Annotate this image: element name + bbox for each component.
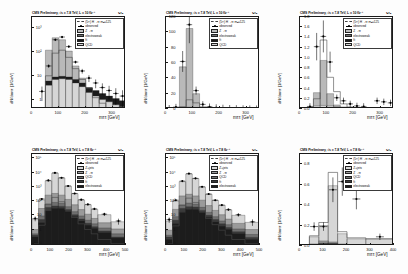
observed-marker-swatch <box>345 25 352 28</box>
y-axis-label: dN/dmττ [1/GeV] <box>9 73 14 104</box>
observed-data-point <box>234 105 240 108</box>
legend-label: t̄t <box>85 38 87 42</box>
x-tick-label: 100 <box>319 247 326 252</box>
y-tick-label: 0.4 <box>298 202 310 207</box>
color-swatch <box>77 185 84 188</box>
x-tick-label: 100 <box>323 110 330 115</box>
legend-label: electroweak <box>85 184 101 188</box>
legend-label: electroweak <box>85 34 101 38</box>
color-swatch <box>77 43 84 46</box>
observed-data-point <box>220 105 226 108</box>
y-tick-label: 1.2 <box>298 44 310 49</box>
color-swatch <box>345 185 352 188</box>
color-swatch <box>211 43 218 46</box>
y-tick-label: 10⁻¹ <box>30 240 42 245</box>
legend-label: t̄t <box>219 180 221 184</box>
color-swatch <box>345 180 352 183</box>
observed-data-point <box>381 99 387 105</box>
x-tick-label: 300 <box>376 110 383 115</box>
x-tick-mark <box>380 106 381 109</box>
observed-data-point <box>73 61 79 64</box>
color-swatch <box>345 29 352 32</box>
x-tick-label: 400 <box>390 247 397 252</box>
x-tick-label: 200 <box>81 110 88 115</box>
legend-label: QCD <box>219 175 226 179</box>
x-tick-mark <box>85 106 86 109</box>
legend-label: (5×) H→ττ mₕ=125 <box>219 157 245 161</box>
x-tick-mark <box>112 106 113 109</box>
y-tick-label: 1.0 <box>298 54 310 59</box>
y-tick-label: 40 <box>164 75 176 80</box>
legend-row: QCD <box>77 43 122 47</box>
observed-data-point <box>327 52 333 73</box>
y-tick-label: 1 <box>30 226 42 231</box>
x-tick-label: 200 <box>343 247 350 252</box>
y-tick-label: 0.8 <box>298 161 310 166</box>
observed-data-point <box>207 103 213 108</box>
legend-label: electroweak <box>353 184 369 188</box>
plot-panel-top-left: CMS Preliminary, √s = 7-8 TeV, L = 10 fb… <box>0 0 134 137</box>
legend-row: electroweak <box>211 184 256 188</box>
channel-label: τₕτₕ <box>386 11 391 15</box>
legend-label: (5×) H→ττ mₕ=125 <box>353 157 379 161</box>
observed-data-point <box>374 98 380 104</box>
y-axis-label: dN/dmττ [1/GeV] <box>143 73 148 104</box>
legend-label: observed <box>353 24 366 28</box>
x-axis-label: mττ [GeV] <box>367 115 387 120</box>
x-tick-label: 300 <box>108 110 115 115</box>
legend-label: (5×) H→ττ mₕ=125 <box>353 20 379 24</box>
y-tick-label: 10² <box>30 198 42 203</box>
plot-legend: (5×) H→ττ mₕ=125observedZ+jetsZ→ττQCDt̄t… <box>343 155 392 191</box>
plot-panel-bottom-left: CMS Preliminary, √s = 7-8 TeV, L = 7.8 f… <box>0 137 134 274</box>
observed-marker-swatch <box>211 162 218 165</box>
color-swatch <box>211 166 218 169</box>
y-tick-label: 10³ <box>30 183 42 188</box>
channel-label: τₕτₕ <box>252 11 257 15</box>
observed-marker-swatch <box>211 25 218 28</box>
legend-label: observed <box>85 24 98 28</box>
observed-marker-swatch <box>77 162 84 165</box>
cms-multipanel-figure: CMS Preliminary, √s = 7-8 TeV, L = 10 fb… <box>0 0 408 274</box>
legend-label: Z→ττ <box>85 29 92 33</box>
y-axis-label: dN/dmττ [1/GeV] <box>277 210 282 241</box>
legend-label: QCD <box>353 43 360 47</box>
observed-data-point <box>66 45 72 47</box>
y-tick-label: 10² <box>30 49 42 54</box>
legend-label: QCD <box>85 43 92 47</box>
x-axis-label: mττ [GeV] <box>233 252 253 257</box>
color-swatch <box>345 176 352 179</box>
legend-label: t̄t <box>219 38 221 42</box>
observed-data-point <box>334 95 340 101</box>
color-swatch <box>211 185 218 188</box>
x-axis-label: mττ [GeV] <box>99 252 119 257</box>
y-tick-label: 1 <box>164 226 176 231</box>
x-tick-label: 500 <box>256 247 263 252</box>
y-tick-label: 20 <box>164 90 176 95</box>
x-tick-mark <box>221 243 222 246</box>
legend-label: Z→ττ <box>219 171 226 175</box>
x-tick-label: 400 <box>103 247 110 252</box>
y-tick-label: 0.8 <box>298 65 310 70</box>
observed-data-point <box>310 222 318 231</box>
x-tick-mark <box>323 243 324 246</box>
y-tick-label: 10 <box>164 212 176 217</box>
legend-label: electroweak <box>219 184 235 188</box>
legend-label: observed <box>219 24 232 28</box>
x-tick-mark <box>50 243 51 246</box>
plot-panel-top-right: CMS Preliminary, √s = 7-8 TeV, L = 10 fb… <box>268 0 402 137</box>
legend-row: QCD <box>345 43 390 47</box>
y-tick-label: 0 <box>164 106 176 111</box>
channel-label: τₕτₕ <box>386 148 391 152</box>
y-tick-label: 100 <box>164 29 176 34</box>
y-tick-label: 10⁻¹ <box>164 240 176 245</box>
color-swatch <box>345 171 352 174</box>
x-tick-label: 300 <box>218 247 225 252</box>
y-tick-label: 0.2 <box>298 222 310 227</box>
legend-row: electroweak <box>77 184 122 188</box>
legend-label: t̄t <box>353 180 355 184</box>
x-axis-label: mττ [GeV] <box>233 115 253 120</box>
color-swatch <box>77 180 84 183</box>
x-tick-label: 100 <box>180 247 187 252</box>
signal-line-swatch <box>345 158 352 159</box>
channel-label: τₕτₕ <box>118 148 123 152</box>
